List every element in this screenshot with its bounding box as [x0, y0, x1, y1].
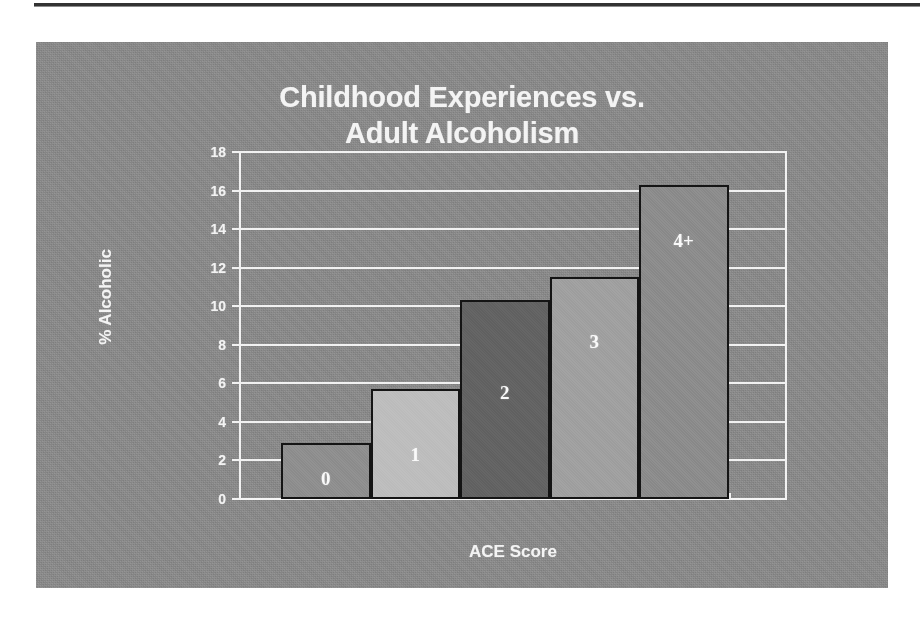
y-tick-label-4: 4 — [218, 414, 226, 430]
y-tick-2 — [232, 459, 240, 461]
y-tick-14 — [232, 228, 240, 230]
bar-3[interactable]: 3 — [550, 277, 640, 499]
y-tick-label-16: 16 — [210, 183, 226, 199]
page-top-rule — [34, 3, 920, 6]
y-tick-label-14: 14 — [210, 221, 226, 237]
y-axis-title: % Alcoholic — [96, 207, 116, 387]
bar-label-3: 3 — [552, 331, 638, 353]
bar-label-2: 2 — [462, 382, 548, 404]
y-tick-16 — [232, 190, 240, 192]
bar-0[interactable]: 0 — [281, 443, 371, 499]
bar-label-0: 0 — [283, 468, 369, 490]
bar-label-1: 1 — [373, 444, 459, 466]
chart-title-line-1: Childhood Experiences vs. — [36, 80, 888, 116]
y-tick-4 — [232, 421, 240, 423]
bar-label-4plus: 4+ — [641, 230, 727, 252]
y-tick-18 — [232, 151, 240, 153]
y-tick-label-6: 6 — [218, 375, 226, 391]
bar-4plus[interactable]: 4+ — [639, 185, 729, 499]
y-tick-label-8: 8 — [218, 337, 226, 353]
y-tick-label-10: 10 — [210, 298, 226, 314]
plot-right-spine — [785, 152, 787, 499]
y-axis-spine — [239, 152, 241, 499]
x-tick-5 — [729, 493, 731, 500]
y-tick-label-0: 0 — [218, 491, 226, 507]
y-tick-12 — [232, 267, 240, 269]
y-tick-label-2: 2 — [218, 452, 226, 468]
bar-2[interactable]: 2 — [460, 300, 550, 499]
x-axis-title: ACE Score — [239, 542, 787, 562]
chart-panel: Childhood Experiences vs. Adult Alcoholi… — [36, 42, 888, 588]
y-tick-label-18: 18 — [210, 144, 226, 160]
chart-title: Childhood Experiences vs. Adult Alcoholi… — [36, 80, 888, 152]
y-tick-6 — [232, 382, 240, 384]
plot-area: 024681012141618 01234+ — [239, 146, 787, 499]
y-tick-8 — [232, 344, 240, 346]
y-tick-10 — [232, 305, 240, 307]
y-tick-label-12: 12 — [210, 260, 226, 276]
y-tick-0 — [232, 498, 240, 500]
bar-1[interactable]: 1 — [371, 389, 461, 499]
gridline-18 — [239, 151, 787, 153]
